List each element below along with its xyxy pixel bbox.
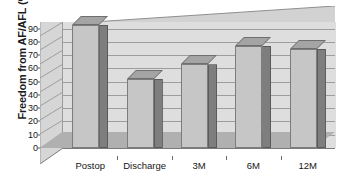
y-axis-tick-label: 60 [28, 64, 38, 73]
x-axis-tick-label: Discharge [123, 160, 166, 171]
bar-side-face [99, 25, 108, 148]
y-axis-tick-label: 70 [28, 51, 38, 60]
y-axis-tick-label: 20 [28, 117, 38, 126]
y-axis-tick-label: 90 [28, 24, 38, 33]
bar-front-face [235, 46, 262, 148]
bar-front-face [72, 25, 99, 148]
x-axis-tick-labels: PostopDischarge3M6M12M [40, 160, 335, 178]
bar[interactable] [290, 40, 317, 148]
x-axis-tick-label: 3M [192, 160, 205, 171]
y-axis-tick-label: 30 [28, 104, 38, 113]
y-axis-tick-label: 50 [28, 77, 38, 86]
chart-baseline [63, 148, 335, 149]
bar-side-face [317, 49, 326, 148]
bar-front-face [290, 49, 317, 148]
x-axis-tick-label: 6M [247, 160, 260, 171]
bar-front-face [127, 79, 154, 148]
x-axis-tick-label: Postop [75, 160, 105, 171]
bar-side-face [154, 79, 163, 148]
plot-area [40, 6, 335, 158]
x-axis-tick-mark [117, 156, 118, 160]
x-axis-tick-mark [281, 156, 282, 160]
y-axis-tick-label: 40 [28, 90, 38, 99]
x-axis-tick-mark [172, 156, 173, 160]
bar-front-face [181, 64, 208, 148]
x-axis-tick-label: 12M [299, 160, 317, 171]
bar[interactable] [181, 55, 208, 148]
x-axis-tick-mark [226, 156, 227, 160]
bar[interactable] [235, 37, 262, 148]
y-axis-tick-label: 10 [28, 130, 38, 139]
bar-side-face [262, 46, 271, 148]
bar[interactable] [127, 70, 154, 148]
bar[interactable] [72, 16, 99, 148]
bar-side-face [208, 64, 217, 148]
bar-chart: Freedom from AF/AFL (%) 0102030405060708… [0, 0, 341, 181]
y-axis-tick-labels: 0102030405060708090 [18, 14, 38, 148]
y-axis-tick-label: 80 [28, 37, 38, 46]
